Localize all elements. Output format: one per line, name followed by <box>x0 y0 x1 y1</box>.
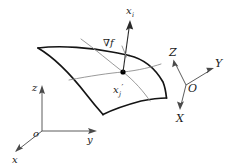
gradient-vector <box>123 20 133 72</box>
global-axis-z-line <box>176 64 187 85</box>
global-axis-x-arrowhead <box>177 101 184 110</box>
gradient-vector-shaft <box>123 27 129 72</box>
local-origin-label: o <box>33 128 39 139</box>
global-axis-x-label: X <box>175 112 185 125</box>
global-origin-label: O <box>188 82 197 95</box>
tangent-line-horizontal <box>69 64 161 80</box>
gradient-label: ∇f <box>103 37 116 48</box>
surface-edge-top-right <box>129 56 167 99</box>
surface-point-label: x j ′ <box>113 82 124 98</box>
surface-edge-top-left <box>38 47 129 56</box>
surface-patch <box>38 47 167 115</box>
normal-axis-label-subscript: i <box>132 11 134 19</box>
surface-edge-bottom-left <box>38 48 103 115</box>
local-axis-x-arrowhead <box>15 144 23 152</box>
local-axis-x-label: x <box>12 154 18 165</box>
diagram-svg: ∇f x i x j ′ Z Y X O <box>0 0 229 167</box>
local-coordinate-frame: z y x o <box>12 82 97 165</box>
local-axis-z-label: z <box>31 82 38 93</box>
local-axis-y-label: y <box>86 134 93 145</box>
surface-edge-bottom-right <box>103 98 167 115</box>
global-coordinate-frame: Z Y X O <box>168 46 224 125</box>
global-axis-z-arrowhead <box>172 60 178 68</box>
global-axis-y-label: Y <box>215 57 224 70</box>
figure-canvas: ∇f x i x j ′ Z Y X O <box>0 0 229 167</box>
global-axis-z-label: Z <box>168 46 177 59</box>
normal-axis-label: x i <box>126 5 134 19</box>
gradient-vector-arrowhead <box>126 20 133 31</box>
surface-point-label-prime: ′ <box>122 82 124 91</box>
global-axis-y-arrowhead <box>206 68 214 74</box>
